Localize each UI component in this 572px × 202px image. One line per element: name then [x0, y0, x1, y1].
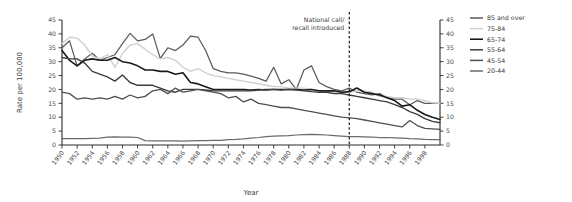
y-axis-left-ticks: 051015202530354045 — [48, 16, 62, 148]
x-tick-label: 1982 — [292, 149, 307, 166]
y-tick-label-right: 25 — [446, 72, 454, 79]
y-tick-label-left: 40 — [48, 30, 56, 37]
y-tick-label-left: 15 — [48, 100, 56, 107]
y-tick-label-left: 35 — [48, 44, 56, 51]
annotation-line2: recall introduced — [292, 24, 344, 31]
x-tick-label: 1976 — [247, 149, 262, 166]
x-tick-label: 1990 — [352, 149, 367, 166]
y-tick-label-left: 25 — [48, 72, 56, 79]
x-axis-ticks: 1950195219541956195819601962196419661968… — [50, 145, 428, 166]
y-tick-label-left: 10 — [48, 113, 56, 120]
x-tick-label: 1964 — [156, 149, 171, 166]
x-tick-label: 1994 — [383, 149, 398, 166]
y-tick-label-right: 10 — [446, 113, 454, 120]
x-tick-label: 1962 — [141, 149, 156, 166]
legend-label-75-84: 75-84 — [487, 25, 505, 32]
x-tick-label: 1966 — [171, 149, 186, 166]
x-tick-label: 1986 — [322, 149, 337, 166]
x-tick-label: 1954 — [80, 149, 95, 166]
y-tick-label-right: 0 — [446, 141, 450, 148]
x-tick-label: 1968 — [186, 149, 201, 166]
x-tick-label: 1952 — [65, 149, 80, 166]
y-tick-label-left: 0 — [52, 141, 56, 148]
series-group — [62, 33, 440, 141]
legend: 85 and over75-8465-7455-6445-5420-44 — [470, 14, 525, 74]
x-tick-label: 1958 — [111, 149, 126, 166]
x-tick-label: 1974 — [232, 149, 247, 166]
x-tick-label: 1998 — [413, 149, 428, 166]
x-tick-label: 1988 — [337, 149, 352, 166]
series-line-45-54 — [62, 88, 440, 129]
y-tick-label-right: 5 — [446, 127, 450, 134]
x-tick-label: 1950 — [50, 149, 65, 166]
annotation-group: National call/recall introduced — [292, 16, 345, 31]
y-axis-title: Rate per 100,000 — [16, 52, 24, 113]
legend-label-20-44: 20-44 — [487, 67, 505, 74]
y-tick-label-right: 45 — [446, 16, 454, 23]
x-tick-label: 1960 — [126, 149, 141, 166]
y-tick-label-right: 30 — [446, 58, 454, 65]
line-chart: 051015202530354045 051015202530354045 19… — [0, 0, 572, 202]
y-tick-label-left: 45 — [48, 16, 56, 23]
series-line-85-and-over — [62, 33, 440, 104]
y-tick-label-right: 35 — [446, 44, 454, 51]
y-tick-label-left: 30 — [48, 58, 56, 65]
legend-label-85-and-over: 85 and over — [487, 14, 525, 21]
y-tick-label-left: 20 — [48, 86, 56, 93]
y-axis-right-ticks: 051015202530354045 — [440, 16, 454, 148]
x-tick-label: 1956 — [95, 149, 110, 166]
y-tick-label-right: 40 — [446, 30, 454, 37]
x-tick-label: 1996 — [398, 149, 413, 166]
legend-label-45-54: 45-54 — [487, 57, 505, 64]
y-tick-label-right: 15 — [446, 100, 454, 107]
series-line-20-44 — [62, 134, 440, 141]
x-tick-label: 1992 — [368, 149, 383, 166]
y-tick-label-left: 5 — [52, 127, 56, 134]
x-tick-label: 1978 — [262, 149, 277, 166]
series-line-75-84 — [62, 37, 440, 103]
legend-label-65-74: 65-74 — [487, 36, 505, 43]
x-tick-label: 1984 — [307, 149, 322, 166]
legend-label-55-64: 55-64 — [487, 46, 505, 53]
annotation-line1: National call/ — [304, 16, 345, 23]
y-tick-label-right: 20 — [446, 86, 454, 93]
x-tick-label: 1970 — [201, 149, 216, 166]
x-tick-label: 1980 — [277, 149, 292, 166]
chart-canvas: 051015202530354045 051015202530354045 19… — [0, 0, 572, 202]
x-axis-title: Year — [243, 189, 259, 197]
x-tick-label: 1972 — [216, 149, 231, 166]
